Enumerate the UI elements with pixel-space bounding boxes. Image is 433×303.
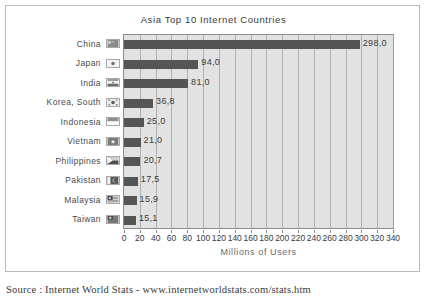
y-axis-label-text: Philippines [55, 156, 101, 166]
japan-flag-icon [106, 59, 120, 68]
x-axis-tick-label: 340 [386, 233, 400, 243]
bar-value-label: 20,7 [143, 155, 162, 165]
gridline [251, 35, 252, 228]
malaysia-flag-icon [106, 195, 120, 204]
india-flag-icon [106, 78, 120, 87]
x-axis-tick-label: 260 [323, 233, 337, 243]
gridline [314, 35, 315, 228]
y-axis-label-text: Pakistan [65, 175, 101, 185]
y-axis-label-text: China [77, 39, 101, 49]
x-axis-ticks: 0204060801001201401601802002202402602803… [123, 230, 394, 244]
y-axis-label-row: Pakistan [6, 173, 123, 187]
gridline [377, 35, 378, 228]
plot-area [123, 34, 394, 229]
bar-value-label: 25,0 [147, 116, 166, 126]
x-axis-tick-label: 140 [228, 233, 242, 243]
x-axis-tick-label: 280 [338, 233, 352, 243]
indonesia-flag-icon [106, 117, 120, 126]
x-axis-tick-label: 320 [370, 233, 384, 243]
y-axis-label-row: China [6, 37, 123, 51]
vietnam-flag-icon [106, 137, 120, 146]
y-axis-label-row: Indonesia [6, 115, 123, 129]
x-axis-tick-label: 20 [135, 233, 144, 243]
x-axis-tick-label: 40 [151, 233, 160, 243]
south-korea-flag-icon [106, 98, 120, 107]
x-axis-tick-label: 0 [122, 233, 127, 243]
x-axis-tick-label: 300 [354, 233, 368, 243]
bar [124, 40, 360, 49]
bar-value-label: 15,9 [140, 194, 159, 204]
y-axis-label-text: Indonesia [61, 117, 101, 127]
gridline [235, 35, 236, 228]
gridline [330, 35, 331, 228]
x-axis-tick-label: 240 [307, 233, 321, 243]
gridline [266, 35, 267, 228]
y-axis-label-text: Malaysia [64, 195, 101, 205]
y-axis-label-row: Korea, South [6, 95, 123, 109]
y-axis-label-text: Korea, South [47, 97, 101, 107]
bar-value-label: 17,5 [141, 174, 160, 184]
x-axis-tick-label: 180 [259, 233, 273, 243]
gridline [298, 35, 299, 228]
bar [124, 138, 141, 147]
gridline [361, 35, 362, 228]
y-axis-label-row: Vietnam [6, 134, 123, 148]
bar [124, 216, 136, 225]
x-axis-title: Millions of Users [123, 247, 394, 257]
bar-value-label: 36,8 [156, 96, 175, 106]
gridline [393, 35, 394, 228]
x-axis-tick-label: 80 [183, 233, 192, 243]
bar [124, 157, 140, 166]
bar-value-label: 21,0 [144, 135, 163, 145]
x-axis-tick-label: 100 [196, 233, 210, 243]
philippines-flag-icon [106, 156, 120, 165]
bar [124, 60, 198, 69]
y-axis-category-labels: ChinaJapanIndiaKorea, SouthIndonesiaViet… [6, 34, 123, 229]
bar-value-label: 298,0 [363, 38, 387, 48]
x-axis-tick-label: 200 [275, 233, 289, 243]
x-axis-tick-label: 60 [167, 233, 176, 243]
y-axis-label-row: India [6, 76, 123, 90]
bar [124, 177, 138, 186]
bar-value-label: 81,0 [191, 77, 210, 87]
y-axis-label-text: Vietnam [67, 136, 101, 146]
y-axis-label-row: Taiwan [6, 212, 123, 226]
x-axis-tick-label: 220 [291, 233, 305, 243]
pakistan-flag-icon [106, 176, 120, 185]
bar [124, 118, 144, 127]
y-axis-label-row: Philippines [6, 154, 123, 168]
china-flag-icon [106, 39, 120, 48]
bar-value-label: 15,1 [139, 213, 158, 223]
bar [124, 79, 188, 88]
y-axis-label-text: India [81, 78, 101, 88]
chart-title: Asia Top 10 Internet Countries [6, 14, 421, 25]
y-axis-label-row: Japan [6, 56, 123, 70]
y-axis-label-text: Taiwan [72, 214, 101, 224]
chart-figure-frame: Asia Top 10 Internet Countries ChinaJapa… [5, 5, 420, 272]
gridline [346, 35, 347, 228]
y-axis-label-text: Japan [76, 58, 101, 68]
gridline [282, 35, 283, 228]
y-axis-label-row: Malaysia [6, 193, 123, 207]
chart-page: Asia Top 10 Internet Countries ChinaJapa… [0, 0, 433, 303]
x-axis-tick-label: 120 [212, 233, 226, 243]
x-axis-tick-label: 160 [243, 233, 257, 243]
bar [124, 99, 153, 108]
bar-value-label: 94,0 [201, 57, 220, 67]
taiwan-flag-icon [106, 215, 120, 224]
source-caption: Source : Internet World Stats - www.inte… [6, 284, 311, 295]
bar [124, 196, 137, 205]
